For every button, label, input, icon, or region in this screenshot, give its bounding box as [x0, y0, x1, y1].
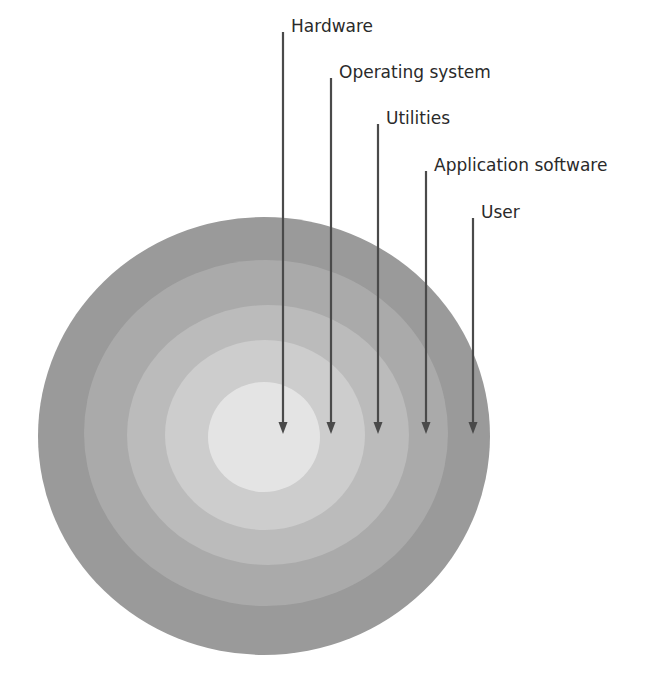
label-utilities: Utilities [386, 108, 450, 128]
label-hardware: Hardware [291, 16, 373, 36]
label-user: User [481, 202, 520, 222]
rings-group [38, 217, 490, 655]
ring-hardware [208, 382, 320, 492]
label-operating-system: Operating system [339, 62, 491, 82]
label-application-software: Application software [434, 155, 607, 175]
layers-diagram: Hardware Operating system Utilities Appl… [0, 0, 657, 677]
